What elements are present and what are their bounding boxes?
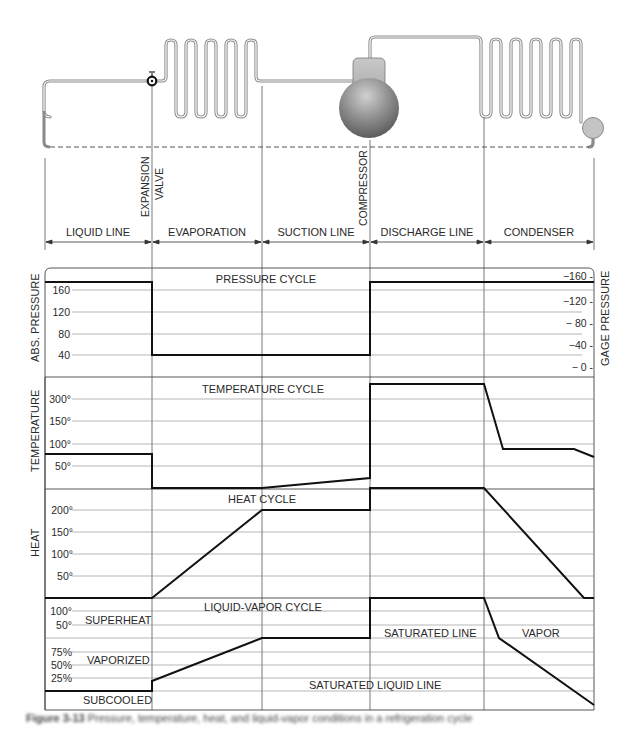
expansion-valve-label-2: VALVE (153, 168, 165, 200)
liquid-vapor-tick: 75% (51, 646, 72, 658)
heat-tick: 150° (51, 526, 73, 538)
section-label-evaporation: EVAPORATION (168, 226, 246, 238)
abs-pressure-tick: 160 (52, 284, 70, 296)
subcooled-label: SUBCOOLED (83, 694, 152, 706)
temperature-tick: 50° (55, 460, 71, 472)
saturated-line-label: SATURATED LINE (384, 627, 477, 639)
heat-cycle-title: HEAT CYCLE (228, 493, 296, 505)
heat-tick: 50° (57, 570, 73, 582)
vaporized-label: VAPORIZED (87, 654, 150, 666)
heat-tick: 200° (51, 504, 73, 516)
figure-caption-text: Pressure, temperature, heat, and liquid-… (88, 712, 473, 724)
heat-axis-label: HEAT (29, 528, 41, 557)
vapor-label: VAPOR (522, 627, 560, 639)
temperature-curve (45, 384, 594, 488)
receiver-tank-icon (583, 118, 604, 139)
heat-tick: 100° (51, 548, 73, 560)
pressure-cycle-panel: 160 120 80 40 −160 - −120 - − 80 - −40 -… (29, 270, 611, 373)
superheat-label: SUPERHEAT (85, 614, 152, 626)
compressor-label: COMPRESSOR (357, 150, 369, 226)
section-label-suction-line: SUCTION LINE (277, 226, 354, 238)
temperature-cycle-title: TEMPERATURE CYCLE (202, 383, 324, 395)
temperature-tick: 300° (49, 393, 71, 405)
section-dimension-arrows (46, 240, 593, 244)
temperature-cycle-panel: 300° 150° 100° 50° TEMPERATURE CYCLE TEM… (29, 383, 594, 488)
abs-pressure-tick: 40 (58, 349, 70, 361)
gage-pressure-tick: − 80 - (566, 317, 594, 329)
gage-pressure-tick: −120 - (563, 295, 594, 307)
section-label-discharge-line: DISCHARGE LINE (381, 226, 474, 238)
saturated-liquid-line-label: SATURATED LIQUID LINE (309, 679, 441, 691)
liquid-vapor-cycle-title: LIQUID-VAPOR CYCLE (204, 601, 322, 613)
liquid-vapor-tick: 50% (51, 659, 72, 671)
pressure-curve (45, 282, 594, 355)
gage-pressure-tick: −40 - (569, 339, 594, 351)
liquid-vapor-tick: 25% (51, 672, 72, 684)
gage-pressure-tick: −160 - (563, 270, 594, 282)
compressor-icon (339, 58, 399, 138)
heat-cycle-panel: 200° 150° 100° 50° HEAT CYCLE HEAT (29, 488, 594, 598)
abs-pressure-tick: 80 (58, 328, 70, 340)
figure-caption-label: Figure 3-13 (26, 712, 85, 724)
temperature-axis-label: TEMPERATURE (29, 390, 41, 472)
gage-pressure-axis-label: GAGE PRESSURE (599, 271, 611, 366)
liquid-vapor-tick: 100° (50, 605, 72, 617)
abs-pressure-tick: 120 (52, 306, 70, 318)
expansion-valve-icon (148, 72, 157, 85)
refrigeration-cycle-diagram: EXPANSION VALVE COMPRESSOR LIQUID LINE E… (0, 0, 636, 732)
heat-curve (45, 488, 594, 598)
section-label-liquid-line: LIQUID LINE (66, 226, 130, 238)
temperature-tick: 100° (49, 438, 71, 450)
temperature-tick: 150° (49, 415, 71, 427)
gage-pressure-tick: − 0 - (572, 361, 594, 373)
liquid-vapor-tick: 50° (56, 619, 72, 631)
abs-pressure-axis-label: ABS. PRESSURE (29, 273, 41, 362)
figure-caption: Figure 3-13 Pressure, temperature, heat,… (26, 712, 472, 724)
liquid-vapor-cycle-panel: 100° 50° 75% 50% 25% LIQUID-VAPOR CYCLE … (45, 598, 594, 706)
expansion-valve-label: EXPANSION (139, 157, 151, 218)
section-label-condenser: CONDENSER (504, 226, 574, 238)
pressure-cycle-title: PRESSURE CYCLE (216, 273, 316, 285)
